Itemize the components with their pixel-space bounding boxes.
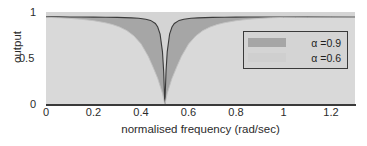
legend-label-alpha-0.9: α =0.9 — [286, 37, 343, 49]
x-tick-label-0.8: 0.8 — [228, 106, 243, 118]
x-tick-label-1: 1 — [280, 106, 286, 118]
x-tick-label-0.6: 0.6 — [181, 106, 196, 118]
legend-item-alpha-0.9: α =0.9 — [248, 35, 343, 50]
y-tick-label-0: 0 — [30, 98, 36, 110]
x-tick-label-1.2: 1.2 — [323, 106, 338, 118]
y-tick-label-1: 1 — [30, 6, 36, 18]
legend: α =0.9 α =0.6 — [243, 31, 348, 69]
legend-item-alpha-0.6: α =0.6 — [248, 50, 343, 65]
y-axis-title: output — [11, 17, 23, 77]
legend-swatch-alpha-0.6 — [248, 53, 286, 62]
x-tick-label-0.2: 0.2 — [86, 106, 101, 118]
legend-swatch-alpha-0.9 — [248, 38, 286, 47]
x-axis-title: normalised frequency (rad/sec) — [46, 123, 355, 135]
x-tick-label-0.4: 0.4 — [133, 106, 148, 118]
x-tick-label-0: 0 — [43, 106, 49, 118]
legend-label-alpha-0.6: α =0.6 — [286, 52, 343, 64]
chart-figure: α =0.9 α =0.6 1 0.5 0 0 0.2 0.4 0.6 0.8 … — [0, 0, 367, 146]
